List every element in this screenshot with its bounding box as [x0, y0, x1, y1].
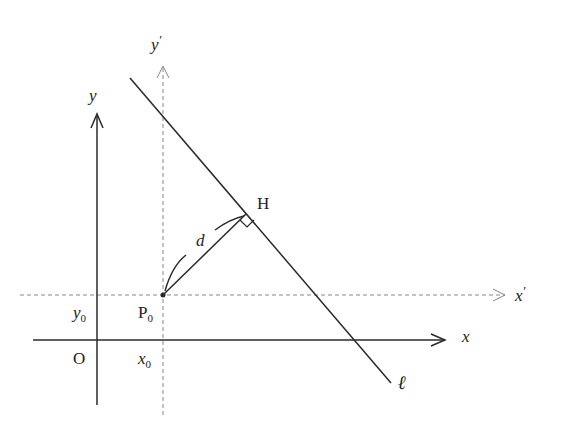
prime-mark: ′: [523, 283, 526, 298]
y-prime-text: y: [151, 35, 159, 54]
x0-subscript: 0: [146, 358, 152, 370]
y0-subscript: 0: [81, 312, 87, 324]
distance-arc-lower: [165, 255, 186, 291]
p-subscript: 0: [147, 312, 153, 324]
p0-label: P0: [138, 304, 153, 321]
diagram-canvas: y′ y H d x′ x y0 P0 O x0 ℓ: [0, 0, 561, 426]
foot-label-h: H: [257, 195, 269, 212]
line-l-label: ℓ: [398, 373, 406, 392]
x-axis-label: x: [462, 328, 470, 345]
y-prime-label: y′: [151, 36, 161, 53]
x-prime-label: x′: [515, 287, 525, 304]
distance-arc-upper: [215, 216, 244, 230]
y0-label: y0: [73, 304, 86, 321]
perpendicular-segment: [163, 214, 246, 295]
x-prime-text: x: [515, 286, 523, 305]
x0-label: x0: [138, 350, 151, 367]
point-p0: [161, 293, 166, 298]
prime-mark: ′: [159, 32, 162, 47]
distance-label-d: d: [196, 232, 205, 249]
y-axis-label: y: [89, 87, 97, 104]
origin-label: O: [73, 350, 85, 367]
x0-text: x: [138, 349, 146, 368]
y0-text: y: [73, 303, 81, 322]
line-l: [130, 78, 391, 383]
